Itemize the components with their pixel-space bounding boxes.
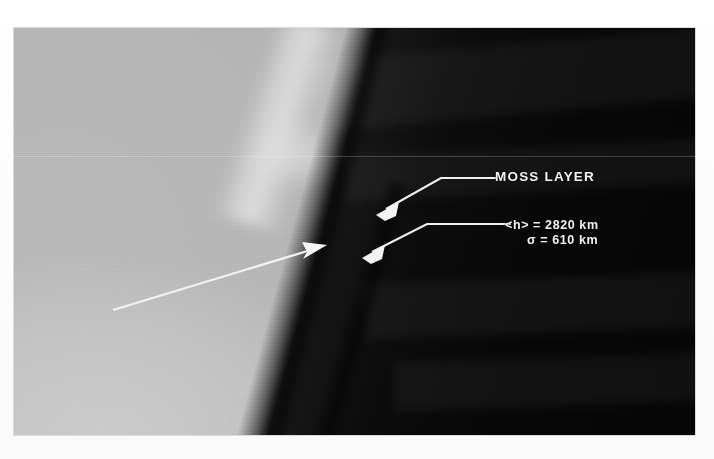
moss-layer-label: MOSS LAYER	[495, 169, 595, 184]
figure-root: MOSS LAYER <h> = 2820 km σ = 610 km	[0, 0, 714, 459]
coronal-band-3	[363, 272, 695, 339]
scan-seam-line	[14, 156, 695, 157]
mean-height-label: <h> = 2820 km	[505, 218, 599, 232]
sigma-label: σ = 610 km	[527, 233, 598, 247]
